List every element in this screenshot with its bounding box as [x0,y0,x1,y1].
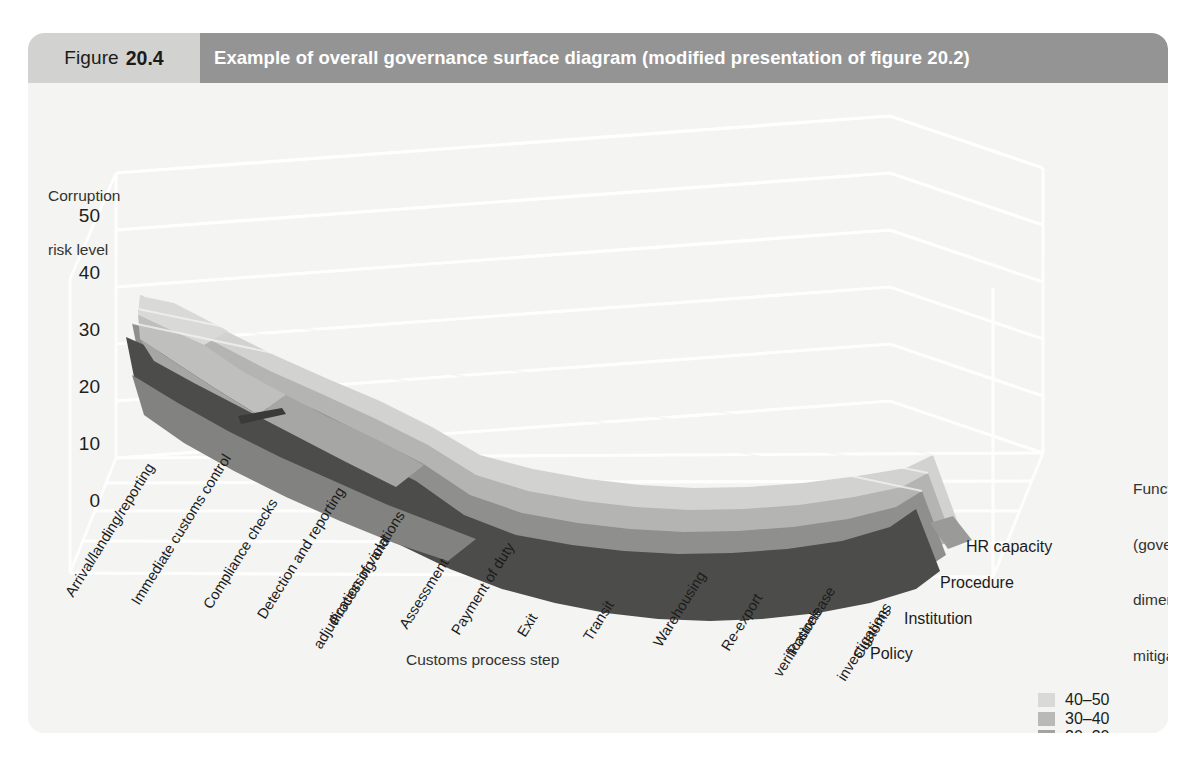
figure-header: Figure 20.4 Example of overall governanc… [28,33,1168,83]
z-axis-title-line1: Functional [1133,480,1168,499]
y-tick-40: 40 [60,262,100,284]
y-axis-title-line2: risk level [48,241,120,259]
legend-item-20-30: 20–30 [1038,728,1168,733]
z-axis-title-line2: (governance) [1133,536,1168,555]
z-axis-title-line4: mitigating action [1133,647,1168,666]
figure-title: Example of overall governance surface di… [214,47,970,69]
figure-number-badge: Figure 20.4 [28,33,200,83]
chart-legend: 40–50 30–40 20–30 10–20 0–10 [1038,691,1168,733]
gridlines-right-wall [993,168,1043,577]
legend-item-30-40: 30–40 [1038,710,1168,729]
y-axis-title-line1: Corruption [48,187,120,205]
z-category-procedure: Procedure [940,574,1014,592]
y-tick-30: 30 [60,319,100,341]
legend-swatch-30-40 [1038,712,1055,726]
y-tick-50: 50 [60,205,100,227]
legend-label-30-40: 30–40 [1065,710,1110,728]
z-category-policy: Policy [870,645,913,663]
figure-label-word: Figure [64,47,118,69]
legend-swatch-20-30 [1038,730,1055,733]
legend-label-40-50: 40–50 [1065,691,1110,709]
z-axis-title-line3: dimensions of [1133,591,1168,610]
z-category-hr-capacity: HR capacity [966,538,1052,556]
figure-panel: Figure 20.4 Example of overall governanc… [28,33,1168,733]
y-tick-10: 10 [60,433,100,455]
chart-plot-area: Corruption risk level 50 40 30 20 10 0 A… [28,83,1168,733]
figure-number: 20.4 [126,47,164,70]
z-category-institution: Institution [904,610,972,628]
figure-page: Figure 20.4 Example of overall governanc… [0,0,1193,772]
legend-swatch-40-50 [1038,693,1055,707]
figure-title-bar: Example of overall governance surface di… [200,33,1168,83]
y-tick-20: 20 [60,376,100,398]
legend-item-40-50: 40–50 [1038,691,1168,710]
legend-label-20-30: 20–30 [1065,728,1110,733]
z-axis-title: Functional (governance) dimensions of mi… [1133,443,1168,702]
x-axis-title: Customs process step [406,651,559,669]
y-tick-0: 0 [60,490,100,512]
